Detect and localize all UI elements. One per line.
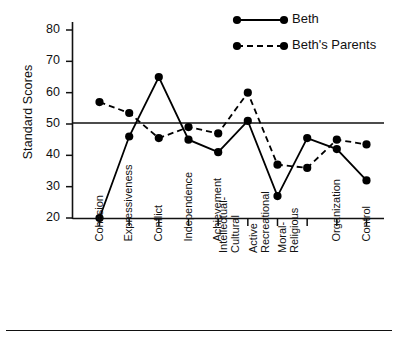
data-point <box>244 117 252 125</box>
data-point <box>95 98 103 106</box>
data-point <box>184 136 192 144</box>
data-point <box>303 164 311 172</box>
x-tick-label-independence: Independence <box>182 172 194 242</box>
data-point <box>244 89 252 97</box>
data-point <box>362 176 370 184</box>
data-point <box>333 145 341 153</box>
x-tick-label-line2: Cultural <box>229 197 241 253</box>
y-tick-label-20: 20 <box>34 210 60 224</box>
x-tick-label-cohesion: Cohesion <box>93 195 105 241</box>
data-point <box>155 73 163 81</box>
data-point <box>184 123 192 131</box>
data-point <box>303 134 311 142</box>
y-tick-label-50: 50 <box>34 116 60 130</box>
data-point <box>273 192 281 200</box>
series-line-beth-s-parents <box>100 93 367 168</box>
x-tick-label-organization: Organization <box>330 179 342 241</box>
y-tick-label-80: 80 <box>34 22 60 36</box>
x-tick-label-line1: Moral- <box>277 208 289 253</box>
x-tick-label-intellectual-cultural: Intellectual-Cultural <box>218 197 241 253</box>
legend-marker <box>280 42 288 50</box>
x-tick-label-control: Control <box>360 206 372 241</box>
legend-glyphs <box>233 16 288 50</box>
x-tick-label-active-recreational: ActiveRecreational <box>248 191 271 253</box>
data-point <box>273 161 281 169</box>
data-point <box>214 148 222 156</box>
y-tick-label-30: 30 <box>34 179 60 193</box>
legend-marker <box>233 42 241 50</box>
legend-marker <box>280 16 288 24</box>
x-tick-label-conflict: Conflict <box>152 205 164 242</box>
x-tick-label-moral-religious: Moral-Religious <box>277 208 300 253</box>
data-point <box>333 136 341 144</box>
x-tick-label-line2: Recreational <box>259 191 271 253</box>
y-tick-label-70: 70 <box>34 53 60 67</box>
x-tick-label-line2: Religious <box>289 208 301 253</box>
legend-label-beth: Beth <box>292 11 319 26</box>
legend-label-beth-s-parents: Beth's Parents <box>292 37 376 52</box>
data-point <box>214 129 222 137</box>
x-tick-label-expressiveness: Expressiveness <box>123 164 135 241</box>
x-tick-label-line1: Active <box>248 191 260 253</box>
legend-marker <box>233 16 241 24</box>
y-tick-marks <box>66 30 73 218</box>
data-point <box>125 109 133 117</box>
data-point <box>362 140 370 148</box>
y-tick-label-60: 60 <box>34 85 60 99</box>
data-point <box>125 132 133 140</box>
x-tick-label-line1: Intellectual- <box>218 197 230 253</box>
data-point <box>155 134 163 142</box>
y-tick-label-40: 40 <box>34 147 60 161</box>
chart-figure: Standard Scores 80706050403020 CohesionE… <box>0 0 398 343</box>
